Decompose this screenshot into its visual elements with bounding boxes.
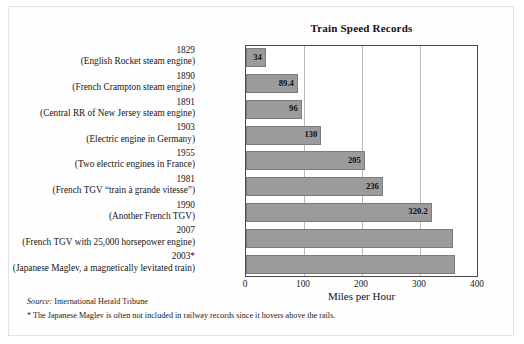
bar <box>246 203 432 222</box>
bar-row: 1890(French Crampton steam engine)89.4 <box>0 71 478 97</box>
bar-value-label: 130 <box>305 129 322 139</box>
category-label: 1890(French Crampton steam engine) <box>0 71 195 94</box>
bar-rows: 1829(English Rocket steam engine)341890(… <box>0 45 478 277</box>
source-line: Source: International Herald Tribune <box>27 297 148 306</box>
category-year: 2007 <box>0 225 195 236</box>
bar-value-label: 205 <box>348 155 365 165</box>
bar-value-label: 34 <box>253 52 266 62</box>
category-label: 1981(French TGV “train à grande vitesse”… <box>0 174 195 197</box>
source-keyword: Source: <box>27 297 52 306</box>
category-description: (English Rocket steam engine) <box>0 56 195 67</box>
bar-value-label: 96 <box>289 103 302 113</box>
category-label: 1955(Two electric engines in France) <box>0 148 195 171</box>
x-tick-label: 300 <box>412 279 426 289</box>
bar-track: 34 <box>246 48 478 67</box>
bar <box>246 255 455 274</box>
bar-track: 96 <box>246 100 478 119</box>
category-year: 1990 <box>0 200 195 211</box>
bar-row: 2003*(Japanese Maglev, a magnetically le… <box>0 251 478 277</box>
category-year: 1955 <box>0 148 195 159</box>
category-year: 1891 <box>0 97 195 108</box>
x-tick-label: 0 <box>243 279 248 289</box>
chart-title: Train Speed Records <box>245 22 478 34</box>
category-description: (French Crampton steam engine) <box>0 82 195 93</box>
category-label: 2003*(Japanese Maglev, a magnetically le… <box>0 251 195 274</box>
bar-row: 2007(French TGV with 25,000 horsepower e… <box>0 225 478 251</box>
x-tick-label: 400 <box>470 279 484 289</box>
bar-row: 1891(Central RR of New Jersey steam engi… <box>0 97 478 123</box>
bar-row: 1990(Another French TGV)320.2 <box>0 200 478 226</box>
category-label: 1829(English Rocket steam engine) <box>0 45 195 68</box>
bar <box>246 229 453 248</box>
bar-row: 1829(English Rocket steam engine)34 <box>0 45 478 71</box>
bar-row: 1981(French TGV “train à grande vitesse”… <box>0 174 478 200</box>
bar-track <box>246 229 478 248</box>
bar-track: 130 <box>246 126 478 145</box>
source-value: International Herald Tribune <box>52 297 148 306</box>
bar-track: 89.4 <box>246 74 478 93</box>
category-year: 1981 <box>0 174 195 185</box>
x-tick-label: 200 <box>354 279 368 289</box>
category-year: 1903 <box>0 122 195 133</box>
category-year: 1829 <box>0 45 195 56</box>
footnote: * The Japanese Maglev is often not inclu… <box>27 311 335 320</box>
bar <box>246 177 383 196</box>
bar-row: 1955(Two electric engines in France)205 <box>0 148 478 174</box>
bar-track: 205 <box>246 151 478 170</box>
bar-value-label: 89.4 <box>279 78 298 88</box>
figure-container: Train Speed Records 1829(English Rocket … <box>0 0 524 344</box>
category-description: (French TGV “train à grande vitesse”) <box>0 185 195 196</box>
category-label: 1990(Another French TGV) <box>0 200 195 223</box>
category-description: (Central RR of New Jersey steam engine) <box>0 108 195 119</box>
x-tick-label: 100 <box>296 279 310 289</box>
category-description: (Two electric engines in France) <box>0 159 195 170</box>
category-label: 1903(Electric engine in Germany) <box>0 122 195 145</box>
category-description: (Japanese Maglev, a magnetically levitat… <box>0 263 195 274</box>
bar-row: 1903(Electric engine in Germany)130 <box>0 122 478 148</box>
category-description: (Another French TGV) <box>0 211 195 222</box>
bar-value-label: 320.2 <box>408 206 431 216</box>
category-label: 1891(Central RR of New Jersey steam engi… <box>0 97 195 120</box>
category-year: 2003* <box>0 251 195 262</box>
category-description: (French TGV with 25,000 horsepower engin… <box>0 237 195 248</box>
category-year: 1890 <box>0 71 195 82</box>
bar-track: 320.2 <box>246 203 478 222</box>
category-label: 2007(French TGV with 25,000 horsepower e… <box>0 225 195 248</box>
bar-value-label: 236 <box>366 181 383 191</box>
category-description: (Electric engine in Germany) <box>0 134 195 145</box>
x-axis-label: Miles per Hour <box>245 290 478 302</box>
bar-track: 236 <box>246 177 478 196</box>
bar-track <box>246 255 478 274</box>
